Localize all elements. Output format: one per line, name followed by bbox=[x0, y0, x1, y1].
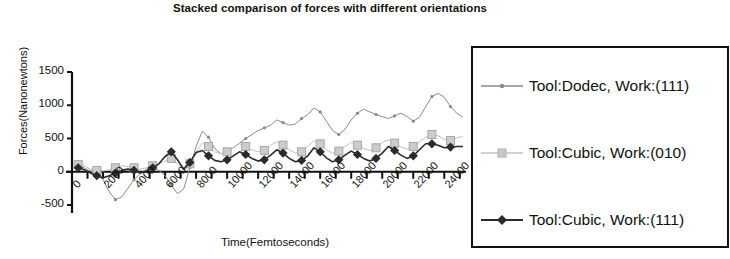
axes bbox=[66, 72, 466, 213]
legend-label-cubic-111: Tool:Cubic, Work:(111) bbox=[529, 211, 684, 229]
y-tick-0: 0 bbox=[20, 164, 64, 176]
legend-label-cubic-010: Tool:Cubic, Work:(010) bbox=[529, 144, 686, 162]
y-tick-500: 500 bbox=[20, 131, 64, 143]
legend-label-dodec-111: Tool:Dodec, Work:(111) bbox=[529, 77, 689, 95]
y-tick-1000: 1000 bbox=[20, 97, 64, 109]
legend-line-swatch-dodec bbox=[479, 78, 525, 94]
y-tick--500: -500 bbox=[20, 197, 64, 209]
y-tick-1500: 1500 bbox=[20, 64, 64, 76]
legend-line-swatch-cubic-010 bbox=[479, 145, 525, 161]
chart-figure: Stacked comparison of forces with differ… bbox=[0, 0, 730, 259]
legend-box: Tool:Dodec, Work:(111) Tool:Cubic, Work:… bbox=[471, 46, 729, 248]
legend-item-cubic-010[interactable]: Tool:Cubic, Work:(010) bbox=[479, 141, 686, 165]
legend-line-swatch-cubic-111 bbox=[479, 212, 525, 228]
legend-item-dodec-111[interactable]: Tool:Dodec, Work:(111) bbox=[479, 74, 689, 98]
legend-item-cubic-111[interactable]: Tool:Cubic, Work:(111) bbox=[479, 208, 684, 232]
